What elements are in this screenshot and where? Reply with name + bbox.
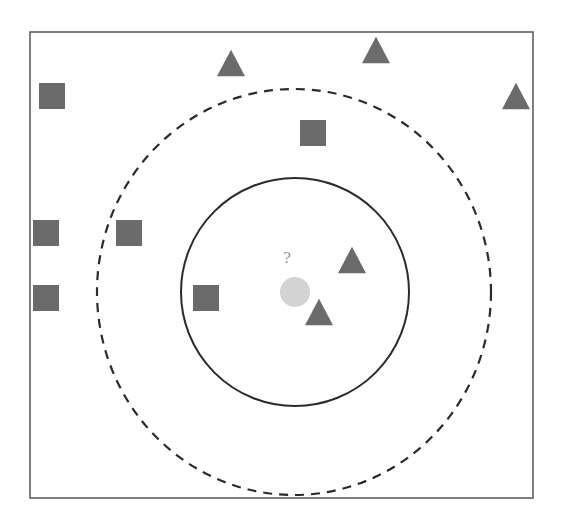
- triangle-point: [362, 37, 390, 64]
- query-point: [280, 277, 310, 307]
- knn-diagram: ?: [0, 0, 561, 518]
- square-point: [33, 220, 59, 246]
- square-point: [193, 285, 219, 311]
- triangle-point: [338, 247, 366, 274]
- square-point: [300, 120, 326, 146]
- square-point: [33, 285, 59, 311]
- triangle-point: [217, 50, 245, 77]
- plot-frame: [30, 32, 533, 498]
- square-point: [116, 220, 142, 246]
- triangle-point: [305, 299, 333, 326]
- diagram-canvas: [0, 0, 561, 518]
- square-point: [39, 83, 65, 109]
- query-label: ?: [283, 249, 291, 267]
- triangle-point: [502, 83, 530, 110]
